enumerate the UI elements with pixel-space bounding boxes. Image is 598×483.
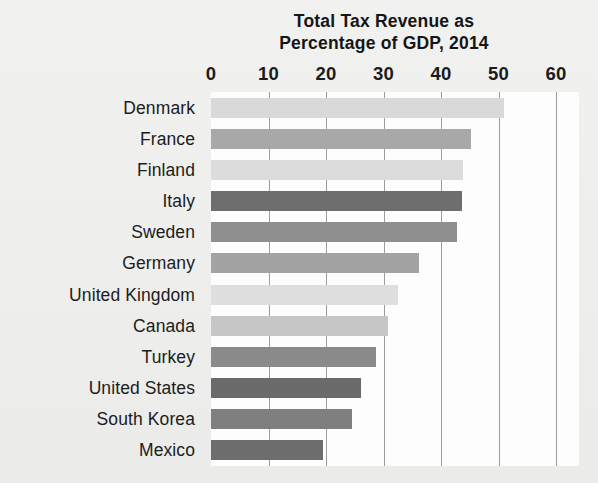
category-label-united-states: United States	[89, 378, 195, 398]
category-label-germany: Germany	[122, 253, 195, 273]
category-label-sweden: Sweden	[131, 222, 195, 242]
bar-italy	[211, 191, 462, 211]
bar-united-states	[211, 378, 361, 398]
bar-south-korea	[211, 409, 352, 429]
chart-title: Total Tax Revenue as Percentage of GDP, …	[198, 10, 570, 54]
category-label-finland: Finland	[137, 160, 195, 180]
gridline-60	[556, 92, 557, 466]
chart-title-line-1: Total Tax Revenue as	[198, 10, 570, 32]
category-label-mexico: Mexico	[139, 440, 195, 460]
x-tick-label-60: 60	[545, 63, 566, 85]
category-label-turkey: Turkey	[142, 347, 195, 367]
category-label-denmark: Denmark	[123, 98, 195, 118]
x-axis-tick-labels: 0102030405060	[211, 63, 579, 89]
bar-denmark	[211, 98, 504, 118]
x-tick-label-40: 40	[430, 63, 451, 85]
plot-area	[211, 92, 579, 466]
bar-sweden	[211, 222, 457, 242]
bar-chart: Total Tax Revenue as Percentage of GDP, …	[0, 0, 598, 483]
bar-turkey	[211, 347, 376, 367]
bar-germany	[211, 253, 419, 273]
x-tick-label-0: 0	[206, 63, 217, 85]
category-label-canada: Canada	[133, 316, 195, 336]
x-tick-label-30: 30	[373, 63, 394, 85]
x-tick-label-50: 50	[488, 63, 509, 85]
x-tick-label-10: 10	[258, 63, 279, 85]
category-label-france: France	[140, 129, 195, 149]
bar-united-kingdom	[211, 285, 398, 305]
bar-mexico	[211, 440, 323, 460]
bar-canada	[211, 316, 388, 336]
category-label-united-kingdom: United Kingdom	[69, 285, 195, 305]
bar-france	[211, 129, 471, 149]
chart-title-line-2: Percentage of GDP, 2014	[198, 32, 570, 54]
y-axis-category-labels: DenmarkFranceFinlandItalySwedenGermanyUn…	[0, 92, 203, 466]
category-label-south-korea: South Korea	[97, 409, 195, 429]
category-label-italy: Italy	[162, 191, 195, 211]
gridline-50	[499, 92, 500, 466]
bar-finland	[211, 160, 463, 180]
x-tick-label-20: 20	[315, 63, 336, 85]
